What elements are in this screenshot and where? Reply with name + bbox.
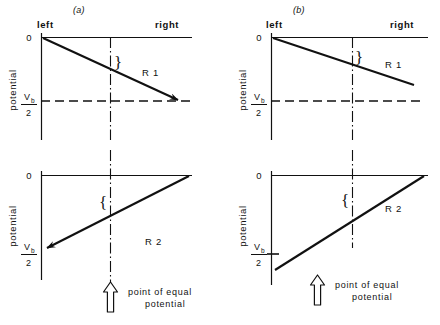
gap-brace-a-top: } xyxy=(114,53,122,72)
vb-numerator-a-top: V xyxy=(24,92,30,102)
chart-b-bottom: 0 potential V b 2 { R 2 xyxy=(237,150,428,285)
axis-label-left-b-top: left xyxy=(266,19,283,30)
region-label-b-bottom: R 2 xyxy=(385,203,402,214)
y-axis-title-a-bottom: potential xyxy=(7,205,18,246)
caption-line1-a: point of equal xyxy=(128,287,192,297)
axis-label-right-b-top: right xyxy=(390,19,414,30)
vb-subscript-a-top: b xyxy=(31,97,35,104)
axis-label-right-a-top: right xyxy=(155,19,179,30)
zero-tick-label-b-top: 0 xyxy=(256,32,261,43)
vb-over-2-a-top: V b 2 xyxy=(21,92,37,118)
y-axis-title-b-bottom: potential xyxy=(237,205,248,246)
chart-a-bottom: 0 potential V b 2 { R 2 xyxy=(7,150,192,285)
equal-potential-callout-a: point of equal potential xyxy=(104,282,192,312)
zero-tick-label-b-bottom: 0 xyxy=(256,170,261,181)
caption-line2-b: potential xyxy=(352,292,392,302)
vb-subscript-b-bottom: b xyxy=(261,247,265,254)
potential-trace-a-bottom xyxy=(47,176,189,248)
zero-tick-label-a-top: 0 xyxy=(26,32,31,43)
caption-line2-a: potential xyxy=(145,299,185,309)
vb-denominator-a-top: 2 xyxy=(26,108,31,118)
vb-over-2-b-top: V b 2 xyxy=(251,92,267,118)
vb-denominator-b-bottom: 2 xyxy=(256,258,261,268)
vb-denominator-b-top: 2 xyxy=(256,108,261,118)
vb-subscript-a-bottom: b xyxy=(31,247,35,254)
vb-numerator-b-top: V xyxy=(254,92,260,102)
panel-a-label: (a) xyxy=(73,5,85,15)
vb-numerator-a-bottom: V xyxy=(24,242,30,252)
potential-trace-b-bottom xyxy=(275,176,424,270)
panel-b-label: (b) xyxy=(293,5,305,15)
zero-tick-label-a-bottom: 0 xyxy=(26,170,31,181)
vb-over-2-b-bottom: V b 2 xyxy=(251,242,267,268)
vb-subscript-b-top: b xyxy=(261,97,265,104)
figure-canvas: (a) left right 0 potential V b 2 xyxy=(0,0,440,325)
vb-numerator-b-bottom: V xyxy=(254,242,260,252)
y-axis-title-b-top: potential xyxy=(237,69,248,110)
region-label-b-top: R 1 xyxy=(385,59,402,70)
gap-brace-b-top: } xyxy=(355,48,363,67)
figure-root: (a) left right 0 potential V b 2 xyxy=(0,0,440,325)
vb-denominator-a-bottom: 2 xyxy=(26,258,31,268)
equal-potential-callout-b: point of equal potential xyxy=(311,275,399,305)
up-arrow-icon-b xyxy=(311,275,325,305)
caption-line1-b: point of equal xyxy=(335,280,399,290)
panel-b: (b) left right 0 potential V b 2 xyxy=(237,5,428,305)
up-arrow-icon-a xyxy=(104,282,118,312)
gap-brace-a-bottom: { xyxy=(99,193,107,212)
y-axis-title-a-top: potential xyxy=(7,69,18,110)
panel-a: (a) left right 0 potential V b 2 xyxy=(7,5,192,312)
region-label-a-top: R 1 xyxy=(142,67,159,78)
gap-brace-b-bottom: { xyxy=(341,191,349,210)
chart-b-top: left right 0 potential V b 2 } R 1 xyxy=(237,19,428,140)
vb-over-2-a-bottom: V b 2 xyxy=(21,242,37,268)
axis-label-left-a-top: left xyxy=(37,19,54,30)
chart-a-top: left right 0 potential V b 2 xyxy=(7,19,192,140)
region-label-a-bottom: R 2 xyxy=(145,236,162,247)
